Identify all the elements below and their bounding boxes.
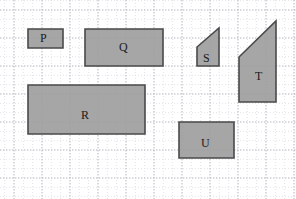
shape-label-r: R	[81, 109, 89, 121]
shape-label-t: T	[255, 70, 262, 82]
shape-t	[239, 21, 276, 102]
shape-label-s: S	[203, 52, 210, 64]
shape-label-p: P	[40, 32, 47, 44]
shape-label-q: Q	[119, 41, 128, 53]
shape-label-u: U	[201, 137, 210, 149]
figure-canvas: PQRSTU	[0, 0, 296, 199]
shapes-group	[0, 0, 296, 199]
